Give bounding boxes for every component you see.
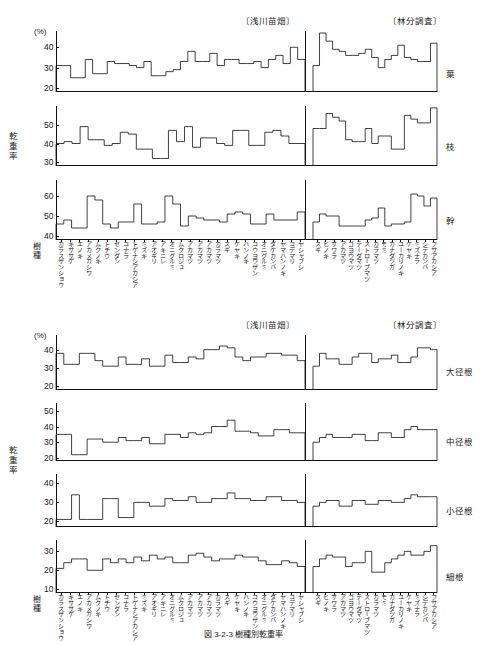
x-tick-label: スギ	[314, 241, 320, 253]
y-tick-mark	[56, 368, 59, 369]
y-tick-label: 30	[44, 364, 53, 373]
x-tick-label: センダン	[113, 241, 119, 264]
y-tick-mark	[56, 350, 59, 351]
x-tick-label: ユーカリノキ	[397, 241, 403, 276]
x-tick-label: アオギリ	[150, 241, 156, 264]
x-tick-label: ケヤキ	[233, 241, 239, 258]
y-tick-label: 40	[44, 232, 53, 241]
x-tick-label: ムクノキ	[94, 594, 100, 617]
plot-area-fine-root: 102030	[56, 540, 437, 593]
plot-area-branch: 304050	[56, 106, 437, 166]
x-tick-label: ミズナラ	[413, 594, 419, 617]
y-tick-mark	[56, 570, 59, 571]
x-tick-label: エノキ	[76, 241, 82, 258]
panel-leaf: 203040 葉	[0, 31, 487, 92]
x-tick-label: アキニレ	[159, 241, 165, 264]
x-tick-label: ゴヨウマツ	[347, 241, 353, 270]
x-tick-label: アカメガシワ	[85, 241, 91, 276]
y-tick-mark	[56, 162, 59, 163]
y-tick-label: 40	[44, 345, 53, 354]
y-tick-label: 40	[44, 43, 53, 52]
y-tick-mark	[56, 88, 59, 89]
x-tick-label: ケヤキ	[405, 241, 411, 258]
x-tick-label: オニグルミ	[260, 594, 266, 623]
x-tick-label: アカマツ	[339, 594, 345, 617]
x-tick-label: アカマツ	[187, 594, 193, 617]
y-tick-mark	[56, 144, 59, 145]
y-tick-label: 40	[44, 139, 53, 148]
y-tick-label: 60	[44, 192, 53, 201]
y-tick-label: 30	[44, 438, 53, 447]
y-tick-mark	[56, 502, 59, 503]
x-tick-label: コウヨウザン	[251, 241, 257, 276]
x-tick-label: ゴヨウマツ	[347, 594, 353, 623]
panel-label-large-root: 大径根	[446, 365, 473, 377]
x-tick-label: ヤマハンノキ	[279, 594, 285, 629]
y-tick-mark	[56, 47, 59, 48]
x-tick-label: ムクロジュ	[177, 594, 183, 623]
plot-area-large-root: 203040	[56, 335, 437, 390]
x-tick-label: アオギリ	[150, 594, 156, 617]
data-trace-small-root	[56, 474, 437, 527]
x-tick-label: センダン	[113, 594, 119, 617]
x-tick-label: アカマツ	[205, 594, 211, 617]
group-header-left: 〔浅川苗畑〕	[241, 14, 295, 28]
y-tick-mark	[56, 589, 59, 590]
panel-label-small-root: 小径根	[446, 504, 473, 516]
x-tick-label: キササゲ	[67, 241, 73, 264]
x-tick-label: カラマツ	[372, 241, 378, 264]
x-tick-label: ケヤキ	[233, 594, 239, 611]
x-tick-label: スギ	[314, 594, 320, 606]
x-tick-label: オニグルミ	[168, 241, 174, 270]
data-trace-fine-root	[56, 540, 437, 593]
x-tick-label: ヒノキ	[322, 241, 328, 258]
panel-label-trunk: 幹	[446, 214, 455, 226]
x-tick-label: スギ	[223, 241, 229, 253]
y-tick-label: 40	[44, 422, 53, 431]
x-tick-label: コナラ	[122, 594, 128, 611]
y-tick-mark	[56, 483, 59, 484]
x-tick-label: アカマツ	[196, 594, 202, 617]
x-tick-label: コデマリ	[288, 241, 294, 264]
plot-area-trunk: 405060	[56, 180, 437, 240]
chart-block-upper: 〔浅川苗畑〕 〔林分調査〕 (%) 乾重率 203040 葉 304050 枝	[0, 14, 487, 304]
y-tick-label: 20	[44, 84, 53, 93]
x-tick-label: オニグルミ	[168, 594, 174, 623]
y-tick-label: 30	[44, 63, 53, 72]
panel-fine-root: 102030 細根	[0, 540, 487, 593]
y-tick-mark	[56, 125, 59, 126]
group-header-left-lower: 〔浅川苗畑〕	[241, 318, 295, 332]
x-tick-label: カラスザンショウ	[57, 241, 63, 287]
y-tick-label: 30	[44, 158, 53, 167]
x-tick-label: サワラ	[330, 241, 336, 258]
x-tick-label: トチウ	[104, 594, 110, 611]
x-tick-label: モミ	[380, 594, 386, 606]
panel-trunk: 405060 幹	[0, 180, 487, 240]
x-tick-label: アカマツ	[196, 241, 202, 264]
x-axis-title-lower: 樹種	[30, 595, 44, 613]
data-trace-medium-root	[56, 403, 437, 461]
data-trace-leaf	[56, 31, 437, 92]
y-tick-label: 20	[44, 517, 53, 526]
x-tick-label: ムクノキ	[94, 241, 100, 264]
y-tick-label: 30	[44, 498, 53, 507]
x-tick-label: エノキ	[76, 594, 82, 611]
y-tick-label: 40	[44, 479, 53, 488]
y-tick-mark	[56, 458, 59, 459]
group-header-row-upper: 〔浅川苗畑〕 〔林分調査〕	[0, 14, 487, 28]
x-axis-title-upper: 樹種	[30, 242, 44, 260]
x-tick-label: ダケカンバ	[270, 241, 276, 270]
panel-label-leaf: 葉	[446, 67, 455, 79]
plot-area-medium-root: 20304050	[56, 403, 437, 461]
x-tick-label: ハンノキ	[242, 241, 248, 264]
y-tick-mark	[56, 236, 59, 237]
group-header-right: 〔林分調査〕	[388, 14, 442, 28]
x-tick-label: アカマツ	[187, 241, 193, 264]
x-tick-label: カラマツ	[214, 241, 220, 264]
x-tick-label: フサアカシア	[430, 241, 436, 276]
y-tick-label: 50	[44, 407, 53, 416]
y-tick-mark	[56, 386, 59, 387]
y-tick-label: 20	[44, 566, 53, 575]
x-tick-label: ミズナラ	[413, 241, 419, 264]
